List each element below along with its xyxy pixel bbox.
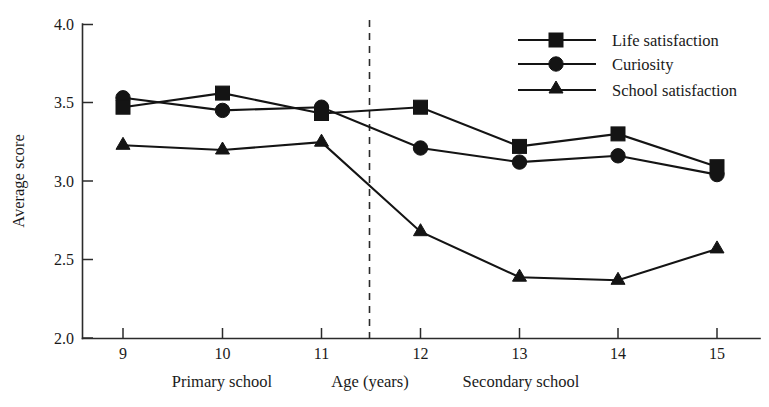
x-tick-label-3: 12 — [413, 345, 429, 362]
marker-square-13 — [513, 139, 527, 153]
x-tick-label-1: 10 — [215, 345, 231, 362]
legend-label-life-satisfaction: Life satisfaction — [612, 31, 719, 50]
x-tick-label-4: 13 — [512, 345, 528, 362]
x-axis-title: Age (years) — [331, 372, 408, 391]
legend-label-curiosity: Curiosity — [612, 55, 674, 74]
marker-square-9 — [116, 100, 130, 114]
primary-school-label: Primary school — [172, 372, 273, 391]
y-tick-label-0: 2.0 — [54, 330, 74, 347]
marker-circle-12 — [413, 141, 427, 155]
y-axis-title: Average score — [9, 134, 28, 228]
legend-marker-square-icon — [549, 33, 563, 47]
legend-marker-circle-icon — [549, 57, 563, 71]
line-chart: 4.0 3.5 3.0 2.5 2.0 Average score 9 1 — [0, 0, 769, 407]
x-tick-label-5: 14 — [610, 345, 626, 362]
marker-circle-13 — [512, 155, 526, 169]
y-tick-label-3: 3.5 — [54, 94, 74, 111]
marker-square-11 — [315, 107, 329, 121]
legend-label-school-satisfaction: School satisfaction — [612, 81, 737, 100]
marker-circle-10 — [215, 103, 229, 117]
x-tick-label-2: 11 — [314, 345, 329, 362]
marker-square-12 — [414, 100, 428, 114]
marker-square-15 — [710, 160, 724, 174]
marker-square-14 — [611, 127, 625, 141]
y-tick-label-1: 2.5 — [54, 251, 74, 268]
chart-container: 4.0 3.5 3.0 2.5 2.0 Average score 9 1 — [0, 0, 769, 407]
y-tick-label-2: 3.0 — [54, 173, 74, 190]
x-tick-label-0: 9 — [119, 345, 127, 362]
secondary-school-label: Secondary school — [463, 372, 580, 391]
x-tick-label-6: 15 — [709, 345, 725, 362]
marker-square-10 — [216, 86, 230, 100]
y-tick-label-4: 4.0 — [54, 16, 74, 33]
marker-circle-14 — [611, 149, 625, 163]
